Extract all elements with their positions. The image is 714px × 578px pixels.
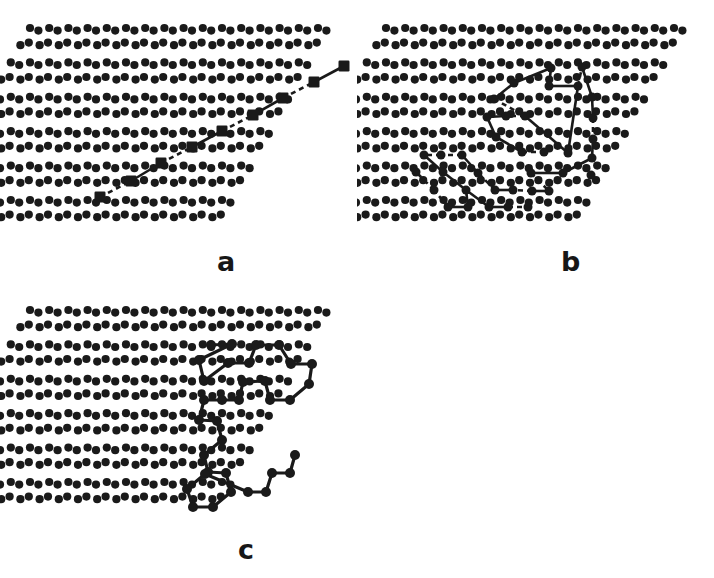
panel-a — [0, 0, 357, 289]
panel-label-c: c — [238, 536, 254, 563]
panel-b — [357, 0, 714, 289]
figure-root: a b c — [0, 0, 714, 578]
panel-label-b: b — [561, 248, 580, 275]
panel-a-canvas — [0, 0, 357, 289]
panel-label-a: a — [217, 248, 235, 275]
panel-c-canvas — [0, 289, 714, 578]
panel-c — [0, 289, 714, 578]
panel-b-canvas — [357, 0, 714, 289]
lattice-dots-a — [0, 24, 331, 221]
